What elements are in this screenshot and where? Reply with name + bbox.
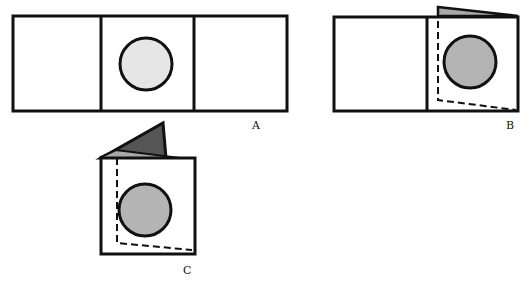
- circle-dark: [119, 184, 171, 236]
- label-c: C: [183, 264, 191, 277]
- figure-c: C: [101, 123, 196, 277]
- figure-b: B: [334, 7, 518, 132]
- label-b: B: [506, 119, 514, 132]
- label-a: A: [251, 119, 261, 132]
- circle-dark: [444, 36, 496, 88]
- circle-light: [120, 38, 172, 90]
- folded-flap: [438, 7, 518, 16]
- folding-diagram: A B C: [0, 0, 530, 285]
- figure-a: A: [13, 16, 287, 132]
